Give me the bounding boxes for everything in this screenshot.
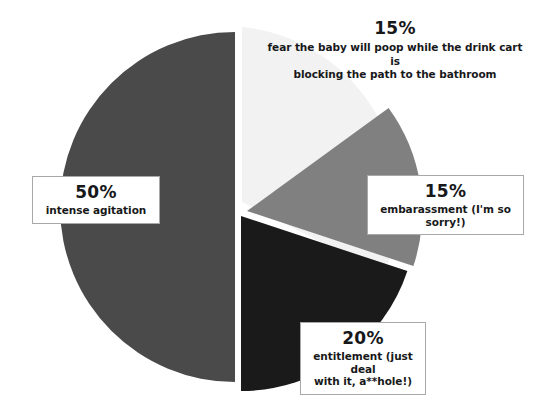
slice-label-entitlement: 20% entitlement (just deal with it, a**h… xyxy=(300,322,426,395)
slice-description: intense agitation xyxy=(40,204,152,217)
slice-label-fear-baby-poop: 15% fear the baby will poop while the dr… xyxy=(262,18,528,82)
slice-percent-value: 20% xyxy=(308,328,418,349)
slice-description-line-1: entitlement (just deal xyxy=(308,350,418,376)
pie-chart-figure: 50% intense agitation 15% fear the baby … xyxy=(0,0,548,410)
slice-description-line-2: with it, a**hole!) xyxy=(308,375,418,388)
slice-percent-value: 15% xyxy=(262,18,528,39)
slice-percent-value: 15% xyxy=(375,181,516,202)
slice-description-line-2: blocking the path to the bathroom xyxy=(262,68,528,82)
slice-percent-value: 50% xyxy=(40,182,152,203)
slice-label-intense-agitation: 50% intense agitation xyxy=(32,176,160,224)
slice-label-embarassment: 15% embarassment (I'm so sorry!) xyxy=(367,175,524,235)
slice-description: embarassment (I'm so sorry!) xyxy=(375,203,516,229)
slice-description-line-1: fear the baby will poop while the drink … xyxy=(262,41,528,69)
